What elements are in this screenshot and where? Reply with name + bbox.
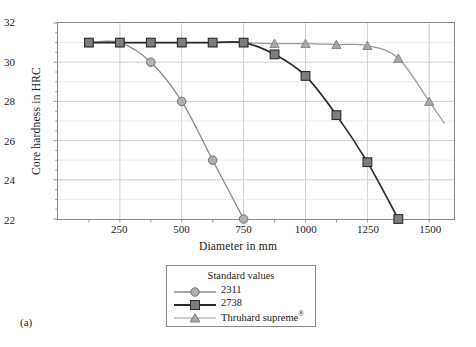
legend-label-thruhard-supreme: Thruhard supreme® [221, 308, 304, 324]
series-layer [58, 23, 454, 219]
x-tick-label: 750 [235, 224, 252, 235]
x-tick-label: 1250 [357, 224, 379, 235]
series-2738 [85, 38, 403, 223]
legend-label-2311: 2311 [221, 284, 242, 296]
series-2311 [85, 38, 248, 223]
x-tick-label: 250 [111, 224, 128, 235]
legend-item-2311: 2311 [173, 283, 309, 296]
legend: Standard values 2311 2738 Thruhard supre… [166, 265, 316, 327]
y-tick-label: 26 [4, 135, 15, 146]
registered-mark-icon: ® [298, 309, 304, 318]
legend-key-square-icon [173, 297, 217, 309]
legend-title: Standard values [173, 269, 309, 282]
y-tick-label: 22 [4, 215, 15, 226]
y-tick-label: 30 [4, 56, 15, 67]
figure-panel-a: Core hardness in HRC 222426283032 250500… [0, 0, 476, 347]
plot-area [57, 22, 455, 220]
legend-item-thruhard-supreme: Thruhard supreme® [173, 309, 309, 322]
x-tick-label: 1500 [419, 224, 441, 235]
legend-key-triangle-icon [173, 310, 217, 322]
x-tick-label: 1000 [295, 224, 317, 235]
y-tick-label: 24 [4, 175, 15, 186]
series-thruhard-supreme [84, 38, 444, 123]
legend-label-2738: 2738 [221, 297, 242, 309]
legend-key-circle-icon [173, 284, 217, 296]
x-tick-label: 500 [173, 224, 190, 235]
legend-label-thruhard-text: Thruhard supreme [221, 311, 298, 322]
y-tick-label: 28 [4, 96, 15, 107]
panel-caption: (a) [20, 316, 32, 328]
x-axis-title: Diameter in mm [0, 240, 476, 252]
y-tick-label: 32 [4, 17, 15, 28]
